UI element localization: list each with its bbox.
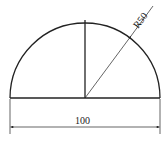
semicircle-drawing: R50 100 (0, 0, 163, 141)
diameter-label: 100 (75, 115, 90, 126)
radius-label: R50 (131, 10, 150, 30)
radius-leader-line (85, 36, 131, 98)
